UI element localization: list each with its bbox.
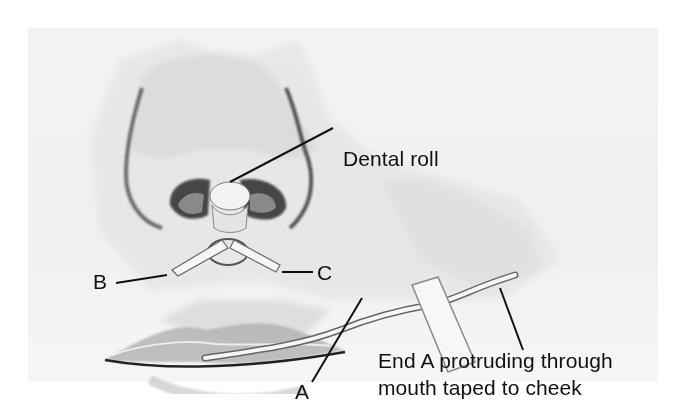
label-c: C [317,262,332,283]
skin-shading [90,40,560,344]
leader-end-a [500,288,523,350]
label-end-a-line1: End A protruding through [378,350,613,371]
label-b: B [93,271,107,292]
label-a: A [295,381,309,402]
label-end-a-line2: mouth taped to cheek [378,377,582,398]
label-dental-roll: Dental roll [343,148,439,169]
